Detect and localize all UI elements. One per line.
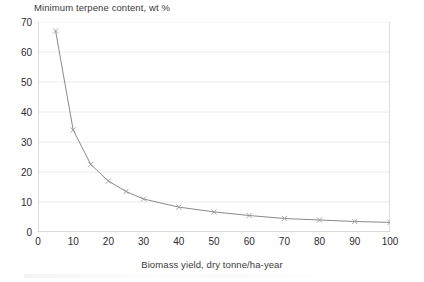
data-line-series	[56, 31, 390, 222]
axis-lines	[38, 22, 390, 232]
y-tick-label: 60	[4, 47, 32, 58]
gridlines	[38, 22, 390, 202]
y-tick-label: 70	[4, 17, 32, 28]
x-tick-label: 100	[370, 236, 410, 247]
y-tick-label: 10	[4, 197, 32, 208]
x-tick-label: 70	[264, 236, 304, 247]
plot-area	[38, 22, 390, 232]
chart-title: Minimum terpene content, wt %	[34, 2, 170, 13]
x-tick-label: 30	[124, 236, 164, 247]
x-tick-label: 20	[88, 236, 128, 247]
chart-figure: Minimum terpene content, wt % 0102030405…	[0, 0, 424, 282]
x-tick-label: 50	[194, 236, 234, 247]
y-tick-label: 30	[4, 137, 32, 148]
data-point-marker	[88, 162, 93, 167]
x-tick-label: 80	[300, 236, 340, 247]
x-axis-title: Biomass yield, dry tonne/ha-year	[0, 259, 424, 270]
line-chart-svg	[38, 22, 390, 232]
data-point-marker	[106, 178, 111, 183]
x-tick-label: 60	[229, 236, 269, 247]
y-tick-label: 40	[4, 107, 32, 118]
x-tick-label: 0	[18, 236, 58, 247]
page-scan-artifact	[24, 274, 314, 278]
x-tick-label: 90	[335, 236, 375, 247]
data-point-marker	[123, 189, 128, 194]
x-tick-label: 40	[159, 236, 199, 247]
y-tick-label: 20	[4, 167, 32, 178]
y-tick-label: 50	[4, 77, 32, 88]
data-point-markers	[53, 28, 390, 225]
x-tick-label: 10	[53, 236, 93, 247]
